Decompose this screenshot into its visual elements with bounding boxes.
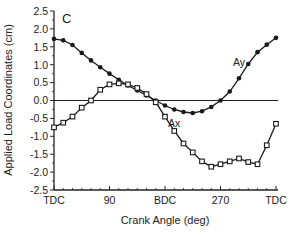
data-point-circle (70, 43, 75, 48)
y-tick-label: -1.0 (30, 130, 48, 142)
series-ay (52, 36, 279, 116)
data-point-square (153, 100, 158, 105)
data-point-circle (181, 110, 186, 115)
y-tick-label: 2.5 (33, 5, 48, 17)
data-point-circle (237, 76, 242, 81)
data-point-square (237, 156, 242, 161)
data-point-square (190, 150, 195, 155)
x-tick-label: TDC (43, 194, 65, 206)
data-point-circle (227, 89, 232, 94)
data-point-circle (209, 105, 214, 110)
data-point-circle (61, 38, 66, 43)
data-point-circle (190, 111, 195, 116)
chart: 2.52.01.51.00.50.0-0.5-1.0-1.5-2.0-2.5 T… (0, 0, 292, 236)
data-point-circle (246, 62, 251, 67)
data-point-circle (200, 109, 205, 114)
data-point-square (107, 82, 112, 87)
data-point-square (98, 87, 103, 92)
y-tick-label: -1.5 (30, 148, 48, 160)
data-point-circle (255, 50, 260, 55)
data-point-square (116, 81, 121, 86)
x-tick-label: TDC (265, 194, 287, 206)
data-point-square (89, 98, 94, 103)
data-point-square (181, 141, 186, 146)
y-tick-label: 0.0 (33, 94, 48, 106)
data-point-square (200, 159, 205, 164)
data-point-circle (264, 42, 269, 47)
data-point-square (209, 164, 214, 169)
series-label-ax: Ax (168, 117, 181, 129)
y-tick-label: -0.5 (30, 112, 48, 124)
data-point-square (274, 121, 279, 126)
data-point-circle (98, 65, 103, 70)
y-tick-label: 1.0 (33, 59, 48, 71)
x-tick-label: 270 (212, 194, 230, 206)
data-point-square (61, 120, 66, 125)
data-point-square (52, 125, 57, 130)
data-point-circle (172, 107, 177, 112)
y-axis-ticks: 2.52.01.51.00.50.0-0.5-1.0-1.5-2.0-2.5 (30, 5, 54, 196)
data-point-circle (89, 58, 94, 63)
x-axis-title: Crank Angle (deg) (121, 214, 210, 226)
data-point-circle (274, 36, 279, 41)
data-point-square (126, 82, 131, 87)
data-point-circle (107, 71, 112, 76)
data-point-square (163, 114, 168, 119)
data-point-square (227, 159, 232, 164)
series-line (54, 38, 276, 113)
y-tick-label: 2.0 (33, 23, 48, 35)
data-point-square (255, 162, 260, 167)
data-point-square (79, 105, 84, 110)
data-point-square (70, 114, 75, 119)
x-tick-label: BDC (154, 194, 177, 206)
data-point-square (264, 143, 269, 148)
series-ax (52, 81, 279, 169)
data-point-square (135, 86, 140, 91)
y-axis-title: Applied Load Coordinates (cm) (2, 24, 14, 176)
data-point-circle (163, 103, 168, 108)
x-tick-label: 90 (104, 194, 116, 206)
data-point-square (246, 160, 251, 165)
series-label-ay: Ay (233, 56, 246, 68)
y-tick-label: 0.5 (33, 76, 48, 88)
y-tick-label: 1.5 (33, 41, 48, 53)
data-point-circle (218, 98, 223, 103)
series-labels: AyAx (168, 56, 246, 129)
panel-label: C (62, 11, 71, 26)
data-point-circle (79, 51, 84, 56)
y-tick-label: -2.0 (30, 166, 48, 178)
series-line (54, 83, 276, 166)
data-point-square (144, 92, 149, 97)
x-axis-ticks: TDC90BDC270TDC (43, 186, 287, 206)
data-point-square (218, 162, 223, 167)
data-point-circle (52, 37, 57, 42)
